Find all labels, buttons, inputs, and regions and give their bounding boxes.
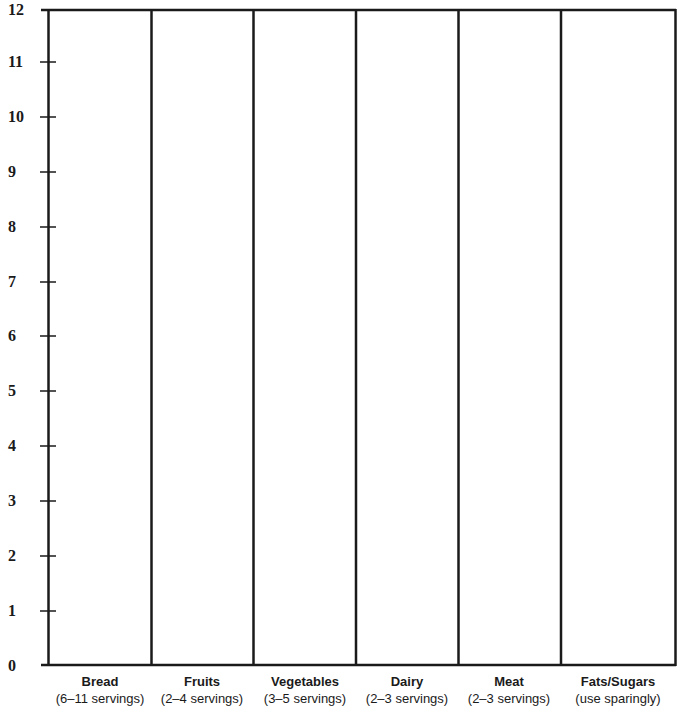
- category-servings: (2–4 servings): [142, 691, 262, 706]
- food-group-bar-chart: 0 1 2 3 4 5 6 7 8 9 10 11 12 Bread (6–11…: [0, 0, 682, 707]
- y-tick-label-8: 8: [8, 219, 38, 235]
- chart-frame: [0, 0, 682, 707]
- category-name: Fats/Sugars: [558, 674, 678, 689]
- y-tick-label-11: 11: [8, 54, 38, 70]
- category-label-fats-sugars: Fats/Sugars (use sparingly): [558, 674, 678, 706]
- y-tick-label-3: 3: [8, 493, 38, 509]
- category-name: Meat: [449, 674, 569, 689]
- y-tick-label-5: 5: [8, 383, 38, 399]
- y-tick-label-12: 12: [8, 2, 38, 18]
- category-servings: (use sparingly): [558, 691, 678, 706]
- category-label-fruits: Fruits (2–4 servings): [142, 674, 262, 706]
- y-tick-label-2: 2: [8, 548, 38, 564]
- category-label-meat: Meat (2–3 servings): [449, 674, 569, 706]
- y-tick-label-6: 6: [8, 328, 38, 344]
- y-tick-label-9: 9: [8, 164, 38, 180]
- y-tick-label-10: 10: [8, 109, 38, 125]
- y-tick-label-7: 7: [8, 274, 38, 290]
- y-tick-label-0: 0: [8, 658, 38, 674]
- y-tick-label-4: 4: [8, 438, 38, 454]
- category-name: Fruits: [142, 674, 262, 689]
- y-tick-label-1: 1: [8, 603, 38, 619]
- category-servings: (2–3 servings): [449, 691, 569, 706]
